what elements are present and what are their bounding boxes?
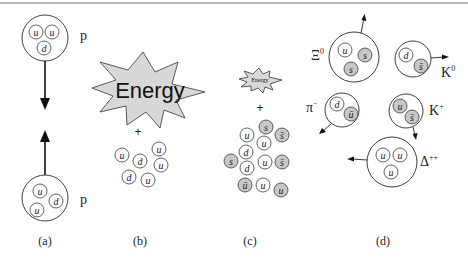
hadron-charge: ++ <box>429 153 439 162</box>
hadron-circle <box>367 137 417 187</box>
hadron-charge: + <box>439 102 444 111</box>
hadron-charge: − <box>313 99 318 108</box>
quark-label: s̄ <box>280 130 284 141</box>
quark-label: u <box>381 150 386 161</box>
quark-label: s̄ <box>410 112 414 123</box>
particle-label-p: p <box>80 28 87 43</box>
arrowhead-up-icon <box>40 130 50 142</box>
hadron-delta-plusplus: u u u Δ++ <box>347 137 439 187</box>
hadron-label: Ξ0 <box>311 47 324 63</box>
quark-label: u <box>157 144 162 155</box>
hadron-symbol: Ξ <box>311 48 320 63</box>
quark-label: s̄ <box>419 61 423 72</box>
quark-label: s <box>363 50 367 61</box>
quark-label: u <box>279 185 284 196</box>
panel-d: u s s Ξ0 d s̄ K0 d ū π− <box>306 14 455 248</box>
hadron-symbol: Δ <box>420 154 429 169</box>
hadron-symbol: π <box>306 100 313 115</box>
quark-label: u <box>262 138 267 149</box>
quark-label: s <box>229 156 233 167</box>
caption-b: (b) <box>133 234 147 248</box>
energy-label-small: Energy <box>251 77 268 83</box>
quark-label: u <box>146 175 151 186</box>
quark-label: u <box>120 150 125 161</box>
hadron-charge: 0 <box>451 64 455 73</box>
quark-label: u <box>38 186 43 197</box>
hadron-charge: 0 <box>320 47 324 56</box>
caption-d: (d) <box>376 234 390 248</box>
quark-gluon-diagram: u u d p u d u p (a) Energy + u <box>0 0 468 259</box>
proton-bottom: u d u p <box>22 175 87 221</box>
arrowhead-down-icon <box>40 98 50 110</box>
quark-label: u <box>261 180 266 191</box>
quark-label: u <box>398 150 403 161</box>
quark-label: ū <box>349 109 354 120</box>
caption-c: (c) <box>243 234 256 248</box>
plus-sign: + <box>256 101 263 115</box>
quark-label: ū <box>243 180 248 191</box>
quark-label: u <box>159 160 164 171</box>
panel-a: u u d p u d u p (a) <box>22 15 87 248</box>
quark-label: s̄ <box>280 157 284 168</box>
hadron-symbol: K <box>429 103 439 118</box>
particle-label-p: p <box>80 192 87 207</box>
quark-label: u <box>263 157 268 168</box>
momentum-arrow <box>323 124 331 131</box>
quark-label: u <box>34 27 39 38</box>
hadron-pi-minus: d ū π− <box>306 93 359 134</box>
hadron-k-plus: u s̄ K+ <box>389 94 444 140</box>
hadron-symbol: K <box>441 65 451 80</box>
hadron-label: K+ <box>429 102 444 118</box>
arrowhead-icon <box>362 14 367 21</box>
hadron-label: Δ++ <box>420 153 439 169</box>
plus-sign: + <box>134 125 141 139</box>
hadron-label: π− <box>306 99 318 115</box>
hadron-xi0: u s s Ξ0 <box>311 14 379 82</box>
quark-label: s <box>264 122 268 133</box>
arrowhead-icon <box>347 157 354 162</box>
quark-label: u <box>245 130 250 141</box>
panel-c: Energy + s u s̄ u d s d u s̄ ū u u (c) <box>224 68 289 248</box>
hadron-circle <box>389 94 423 128</box>
panel-b: Energy + u d u u d u (b) <box>92 52 205 248</box>
quark-label: s <box>349 64 353 75</box>
quark-label: u <box>343 45 348 56</box>
hadron-k0: d s̄ K0 <box>395 41 455 80</box>
quark-label: u <box>35 205 40 216</box>
momentum-arrow <box>352 159 367 160</box>
caption-a: (a) <box>38 234 51 248</box>
energy-label-large: Energy <box>115 78 185 103</box>
arrowhead-icon <box>413 133 418 140</box>
arrowhead-icon <box>442 55 449 60</box>
quark-label: u <box>389 167 394 178</box>
hadron-label: K0 <box>441 64 455 80</box>
proton-top: u u d p <box>22 15 87 61</box>
quark-label: u <box>398 101 403 112</box>
quark-label: u <box>50 27 55 38</box>
